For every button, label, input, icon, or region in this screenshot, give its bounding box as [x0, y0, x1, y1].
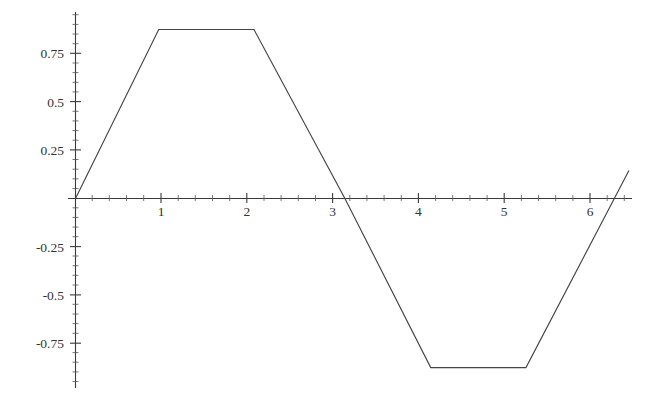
x-tick-label-4: 4 — [415, 204, 422, 219]
trapezoidal-wave-chart: 1 2 3 4 5 6 0.75 0.5 0.25 -0.25 -0.5 -0.… — [0, 0, 654, 402]
y-tick-label-neg075: -0.75 — [36, 336, 64, 351]
x-tick-label-5: 5 — [501, 204, 508, 219]
x-tick-label-3: 3 — [329, 204, 336, 219]
y-tick-label-neg05: -0.5 — [43, 288, 65, 303]
y-tick-label-neg025: -0.25 — [36, 240, 64, 255]
x-tick-label-6: 6 — [587, 204, 594, 219]
y-tick-label-025: 0.25 — [40, 143, 64, 158]
x-tick-label-2: 2 — [243, 204, 250, 219]
chart-container: 1 2 3 4 5 6 0.75 0.5 0.25 -0.25 -0.5 -0.… — [0, 0, 654, 402]
y-tick-label-075: 0.75 — [40, 46, 64, 61]
y-tick-label-05: 0.5 — [47, 95, 64, 110]
x-tick-label-1: 1 — [158, 204, 165, 219]
